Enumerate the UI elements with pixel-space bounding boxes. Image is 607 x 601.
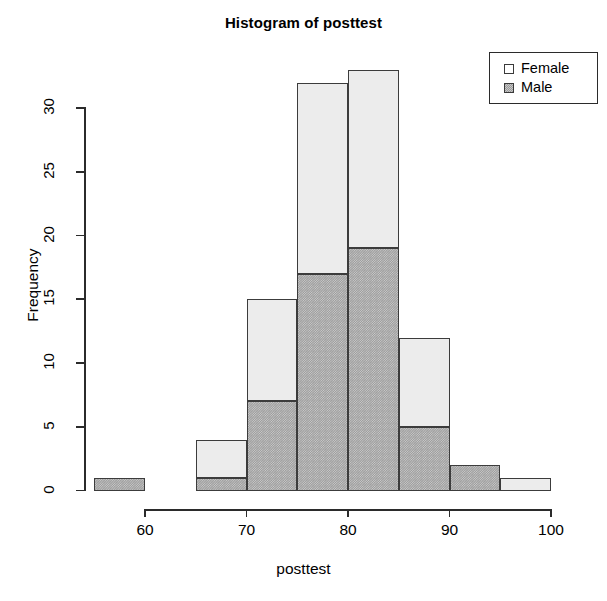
histogram-bar — [500, 478, 551, 491]
y-axis-tick — [76, 235, 84, 237]
y-axis-title: Frequency — [24, 185, 42, 385]
y-axis-tick — [76, 490, 84, 492]
x-axis-tick — [246, 509, 248, 517]
y-axis-tick-label: 0 — [40, 469, 57, 509]
bar-segment-male — [247, 401, 298, 490]
x-axis-tick-label: 90 — [426, 521, 474, 539]
y-axis-line — [84, 107, 86, 491]
histogram-bar — [348, 70, 399, 491]
y-axis-tick — [76, 107, 84, 109]
x-axis-tick — [449, 509, 451, 517]
histogram-bar — [399, 338, 450, 491]
bar-segment-male — [94, 478, 145, 491]
y-axis-tick-label: 5 — [40, 405, 57, 445]
y-axis-tick-label: 15 — [40, 278, 57, 318]
y-axis-tick — [76, 298, 84, 300]
histogram-figure: Histogram of posttest Female Male 051015… — [0, 0, 607, 601]
x-axis-tick — [347, 509, 349, 517]
bar-segment-male — [348, 248, 399, 490]
bar-segment-female — [500, 478, 551, 491]
bar-segment-female — [297, 83, 348, 274]
bar-segment-male — [297, 274, 348, 491]
x-axis-title: posttest — [0, 560, 607, 578]
y-axis-tick — [76, 362, 84, 364]
y-axis-tick-label: 30 — [40, 87, 57, 127]
x-axis-tick-label: 70 — [223, 521, 271, 539]
bar-segment-female — [348, 70, 399, 249]
bar-segment-male — [196, 478, 247, 491]
histogram-bar — [247, 299, 298, 490]
x-axis-tick-label: 60 — [121, 521, 169, 539]
histogram-bar — [297, 83, 348, 491]
bar-segment-female — [399, 338, 450, 427]
bar-segment-male — [450, 465, 501, 491]
y-axis-tick — [76, 426, 84, 428]
plot-area: 051015202530 Frequency 60708090100 postt… — [0, 0, 607, 601]
y-axis-tick-label: 10 — [40, 342, 57, 382]
y-axis-tick-label: 25 — [40, 150, 57, 190]
x-axis-tick-label: 80 — [324, 521, 372, 539]
bar-segment-male — [399, 427, 450, 491]
x-axis-tick-label: 100 — [527, 521, 575, 539]
bar-segment-female — [196, 440, 247, 478]
histogram-bar — [94, 478, 145, 491]
histogram-bar — [196, 440, 247, 491]
y-axis-tick — [76, 171, 84, 173]
y-axis-tick-label: 20 — [40, 214, 57, 254]
x-axis-tick — [144, 509, 146, 517]
x-axis-tick — [550, 509, 552, 517]
bar-segment-female — [247, 299, 298, 401]
histogram-bar — [450, 465, 501, 491]
